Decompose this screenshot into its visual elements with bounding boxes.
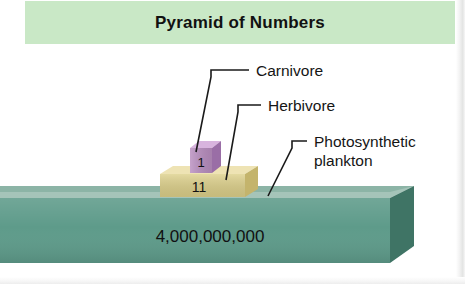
producer-block-value: 4,000,000,000 xyxy=(156,227,265,246)
carnivore-label: Carnivore xyxy=(256,62,323,79)
pyramid-diagram: 4,000,000,000 11 1 Carnivore Herbivore P… xyxy=(0,0,465,284)
carnivore-leader-line xyxy=(196,70,249,152)
herbivore-label: Herbivore xyxy=(268,97,335,114)
carnivore-block: 1 xyxy=(190,141,221,173)
carnivore-block-value: 1 xyxy=(197,155,204,170)
herbivore-block-value: 11 xyxy=(192,179,207,195)
producer-block-side-face xyxy=(390,186,414,263)
pyramid-of-numbers-figure: Pyramid of Numbers 4,000,000,000 11 xyxy=(0,0,465,284)
producer-block: 4,000,000,000 xyxy=(0,186,414,263)
producer-label-line2: plankton xyxy=(314,152,373,169)
producer-label-line1: Photosynthetic xyxy=(314,133,416,150)
